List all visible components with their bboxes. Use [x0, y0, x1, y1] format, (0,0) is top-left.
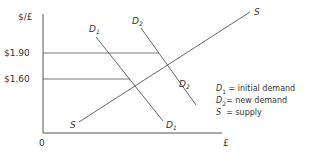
- legend-item-s: S = supply: [216, 108, 295, 118]
- d1-bottom-label: D1: [166, 120, 177, 131]
- legend-item-d1: D1 = initial demand: [216, 84, 295, 96]
- s-top-label: S: [254, 7, 260, 17]
- origin-label: 0: [39, 138, 45, 148]
- demand-curve-d2: [141, 28, 196, 105]
- d1-top-label: D1: [89, 24, 100, 35]
- tick-label-1-60: $1.60: [4, 74, 30, 84]
- s-bottom-label: S: [70, 120, 76, 130]
- d2-bottom-label: D2: [179, 79, 190, 90]
- legend: D1 = initial demand D2= new demand S = s…: [216, 84, 295, 118]
- forex-supply-demand-chart: $/£ $1.90 $1.60 0 £ D1 D2 S D2 D1 S: [0, 0, 310, 155]
- legend-item-d2: D2= new demand: [216, 96, 295, 108]
- d2-top-label: D2: [132, 16, 143, 27]
- tick-label-1-90: $1.90: [4, 48, 30, 58]
- x-axis-label: £: [223, 138, 229, 148]
- y-axis-label: $/£: [18, 12, 32, 22]
